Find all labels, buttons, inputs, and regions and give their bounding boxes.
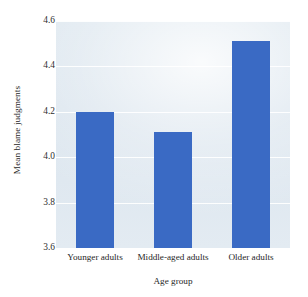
bar-chart-figure: Mean blame judgments Age group 4.64.44.2… [0, 0, 308, 297]
y-axis-tick-label: 4.6 [15, 16, 55, 25]
y-axis-tick-label: 4.2 [15, 107, 55, 116]
gridline [56, 21, 290, 22]
bar [232, 41, 270, 248]
x-axis-tick-label: Older adults [191, 252, 308, 262]
y-axis-tick-label: 4.4 [15, 61, 55, 70]
y-axis-tick-label: 3.8 [15, 198, 55, 207]
bar [154, 132, 192, 248]
x-axis-title: Age group [56, 276, 290, 286]
plot-area [56, 21, 290, 248]
y-axis-tick-label: 4.0 [15, 152, 55, 161]
bar [76, 112, 114, 248]
y-axis-title: Mean blame judgments [12, 50, 22, 210]
y-axis-tick-label: 3.6 [15, 243, 55, 252]
